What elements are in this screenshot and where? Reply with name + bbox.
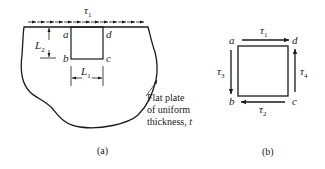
dim-L2-label: L2: [34, 39, 45, 54]
corner-c-label-a: c: [106, 52, 111, 64]
figure-a: τ1 a b c d: [21, 4, 192, 157]
element-abcd-b: [238, 46, 288, 96]
corner-d-label-b: d: [292, 34, 298, 46]
tau2-label-b: τ2: [259, 103, 267, 118]
tau1-label-a: τ1: [84, 4, 92, 19]
corner-c-label-b: c: [292, 95, 297, 107]
corner-a-label-a: a: [63, 28, 69, 40]
tau3-label-b: τ3: [217, 65, 225, 80]
shear-diagram: τ1 a b c d: [0, 0, 325, 169]
corner-b-label-b: b: [229, 95, 235, 107]
caption-b: (b): [262, 146, 274, 158]
figure-b: a b c d τ1 τ2 τ3 τ4 (b): [217, 24, 308, 158]
corner-b-label-a: b: [63, 52, 69, 64]
note-line-2: of uniform: [147, 104, 190, 115]
tau1-label-b: τ1: [260, 24, 268, 39]
element-abcd-a: [71, 27, 103, 59]
note-line-3: thickness, t: [147, 116, 192, 127]
corner-d-label-a: d: [106, 28, 112, 40]
note-line-1: Flat plate: [147, 92, 185, 103]
tau4-label-b: τ4: [300, 65, 308, 80]
corner-a-label-b: a: [229, 34, 235, 46]
caption-a: (a): [97, 145, 108, 157]
